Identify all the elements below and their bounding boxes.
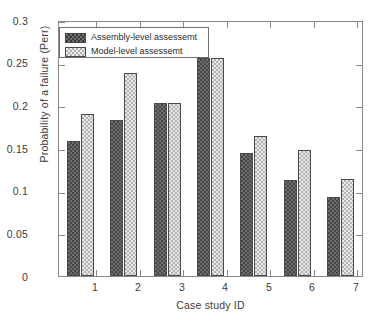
x-tick-label-4: 4 [213, 281, 237, 293]
y-tick-label-0: 0.3 [0, 16, 28, 26]
y-tick-mark-right [356, 107, 362, 108]
x-tick-label-6: 6 [300, 281, 324, 293]
y-tick-label-6: 0 [0, 272, 28, 282]
y-tick-label-4: 0.1 [0, 186, 28, 196]
x-tick-mark [183, 270, 184, 276]
x-tick-mark-top [227, 22, 228, 28]
y-tick-label-5: 0.05 [0, 229, 28, 239]
y-tick-mark [59, 107, 65, 108]
bar-7-series-0 [327, 197, 340, 276]
y-tick-label-2: 0.2 [0, 101, 28, 111]
y-tick-mark-right [356, 65, 362, 66]
x-tick-label-7: 7 [344, 281, 368, 293]
x-tick-mark [96, 270, 97, 276]
bar-3-series-0 [154, 103, 167, 276]
legend-label-assembly: Assembly-level assessemt [91, 32, 197, 43]
bar-6-series-0 [284, 180, 297, 276]
y-tick-mark [59, 193, 65, 194]
bar-1-series-1 [81, 114, 94, 276]
x-tick-label-1: 1 [83, 281, 107, 293]
legend-item-assembly: Assembly-level assessemt [65, 31, 205, 44]
x-tick-label-5: 5 [257, 281, 281, 293]
x-tick-mark-top [357, 22, 358, 28]
bar-5-series-1 [254, 136, 267, 276]
y-tick-mark-right [356, 150, 362, 151]
y-tick-mark-right [356, 235, 362, 236]
y-tick-mark [59, 150, 65, 151]
plot-area: Assembly-level assessemt Model-level ass… [58, 21, 363, 277]
x-tick-mark-top [314, 22, 315, 28]
x-tick-mark [227, 270, 228, 276]
bar-7-series-1 [341, 179, 354, 276]
bar-4-series-0 [197, 58, 210, 276]
legend-label-model: Model-level assessemt [91, 46, 183, 57]
y-tick-label-1: 0.25 [0, 58, 28, 68]
x-axis-title: Case study ID [58, 299, 363, 311]
bar-4-series-1 [211, 58, 224, 276]
bar-3-series-1 [168, 103, 181, 276]
x-tick-mark [140, 270, 141, 276]
x-tick-label-3: 3 [170, 281, 194, 293]
x-tick-mark [314, 270, 315, 276]
y-axis-title: Probability of a failure (Perr) [38, 9, 50, 179]
y-tick-label-3: 0.15 [0, 144, 28, 154]
y-tick-mark [59, 65, 65, 66]
bar-5-series-0 [240, 153, 253, 276]
y-tick-mark [59, 276, 65, 277]
legend-swatch-assembly [65, 33, 86, 43]
bar-2-series-0 [110, 120, 123, 276]
legend-swatch-model [65, 47, 86, 57]
y-tick-mark [59, 22, 65, 23]
legend-item-model: Model-level assessemt [65, 45, 205, 58]
legend: Assembly-level assessemt Model-level ass… [59, 27, 209, 58]
bar-6-series-1 [298, 150, 311, 276]
bar-1-series-0 [67, 141, 80, 276]
y-tick-mark [59, 235, 65, 236]
bar-2-series-1 [124, 73, 137, 276]
x-tick-mark [357, 270, 358, 276]
bar-chart-figure: Probability of a failure (Perr) 0.3 0.25… [0, 0, 391, 322]
y-tick-mark-right [356, 193, 362, 194]
x-tick-mark-top [270, 22, 271, 28]
x-tick-label-2: 2 [126, 281, 150, 293]
x-tick-mark [270, 270, 271, 276]
